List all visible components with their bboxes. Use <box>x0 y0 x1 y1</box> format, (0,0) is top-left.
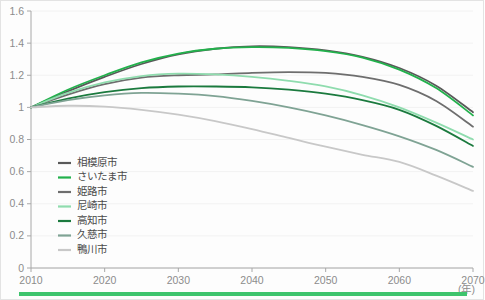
y-tick-label: 1 <box>18 101 24 113</box>
y-tick-label: 0 <box>18 262 24 274</box>
y-axis-tick-labels: 00.20.40.60.811.21.41.6 <box>9 5 24 274</box>
y-tick-label: 0.8 <box>9 133 24 145</box>
legend-label-姫路市: 姫路市 <box>77 185 107 197</box>
y-tick-label: 0.2 <box>9 229 24 241</box>
line-chart-canvas: 00.20.40.60.811.21.41.6 2010202020302040… <box>1 1 485 300</box>
legend-label-相模原市: 相模原市 <box>77 156 117 168</box>
x-tick-label: 2040 <box>240 274 264 286</box>
legend-label-高知市: 高知市 <box>77 214 107 226</box>
series-line-相模原市 <box>31 46 473 112</box>
legend-label-さいたま市: さいたま市 <box>77 170 127 182</box>
y-tick-label: 0.6 <box>9 165 24 177</box>
legend-label-久慈市: 久慈市 <box>77 228 107 240</box>
series-line-さいたま市 <box>31 47 473 115</box>
y-tick-label: 1.4 <box>9 37 24 49</box>
y-tick-label: 1.2 <box>9 69 24 81</box>
data-series-group <box>31 46 473 191</box>
footer-accent-bar <box>19 292 467 296</box>
legend-label-鴨川市: 鴨川市 <box>77 243 107 255</box>
y-tick-label: 0.4 <box>9 197 24 209</box>
x-tick-label: 2010 <box>19 274 43 286</box>
x-tick-label: 2020 <box>93 274 117 286</box>
x-tick-label: 2030 <box>167 274 191 286</box>
legend-label-尼崎市: 尼崎市 <box>77 199 107 211</box>
x-tick-label: 2050 <box>314 274 338 286</box>
y-tick-label: 1.6 <box>9 5 24 17</box>
x-axis-tick-labels: 2010202020302040205020602070 <box>19 274 485 286</box>
x-tick-label: 2060 <box>388 274 412 286</box>
chart-legend: 相模原市さいたま市姫路市尼崎市高知市久慈市鴨川市 <box>58 156 127 255</box>
